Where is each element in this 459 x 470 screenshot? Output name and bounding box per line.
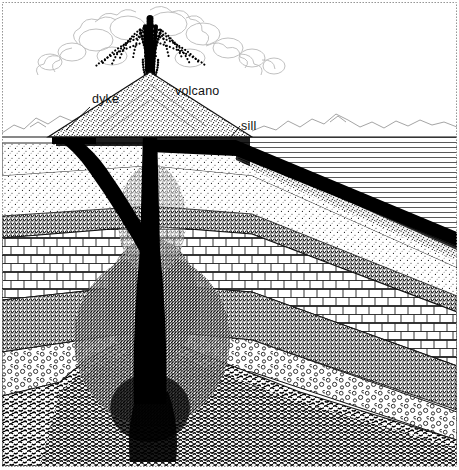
label-dyke: dyke (92, 92, 119, 106)
label-volcano: volcano (175, 84, 220, 98)
volcano-cross-section-diagram: dyke volcano sill (0, 0, 459, 470)
label-sill: sill (241, 119, 256, 133)
figure-canvas: dyke volcano sill (0, 0, 459, 470)
subsurface-strata (2, 130, 457, 466)
